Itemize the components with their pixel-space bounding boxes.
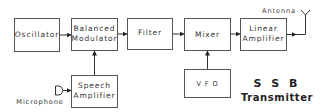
- balanced-modulator-label-2: Modulator: [72, 34, 118, 43]
- balanced-modulator-label-1: Balanced: [74, 24, 116, 33]
- antenna-label: Antenna: [262, 7, 296, 15]
- title-transmitter: Transmitter: [241, 92, 313, 103]
- balanced-modulator-block: Balanced Modulator: [72, 19, 118, 51]
- mixer-label: Mixer: [195, 30, 220, 39]
- speech-amplifier-label-2: Amplifier: [74, 91, 116, 100]
- filter-label: Filter: [138, 28, 162, 37]
- microphone-label: Microphone: [16, 98, 63, 106]
- speech-amplifier-block: Speech Amplifier: [72, 76, 118, 108]
- oscillator-label: Oscillator: [15, 30, 59, 39]
- oscillator-block: Oscillator: [15, 19, 60, 52]
- microphone-icon: [56, 86, 63, 95]
- vfo-label: V F O: [196, 80, 218, 88]
- linear-amplifier-block: Linear Amplifier: [241, 19, 287, 51]
- vfo-block: V F O: [185, 70, 231, 98]
- filter-block: Filter: [128, 19, 173, 50]
- speech-amplifier-label-1: Speech: [78, 81, 111, 90]
- linear-amplifier-label-2: Amplifier: [243, 34, 285, 43]
- antenna-feed-line: [296, 15, 306, 35]
- mixer-block: Mixer: [185, 19, 231, 51]
- ssb-transmitter-diagram: Oscillator Balanced Modulator Filter Mix…: [0, 0, 327, 112]
- antenna-icon: [301, 10, 310, 15]
- linear-amplifier-label-1: Linear: [249, 24, 278, 33]
- title-ssb: S S B: [254, 77, 301, 90]
